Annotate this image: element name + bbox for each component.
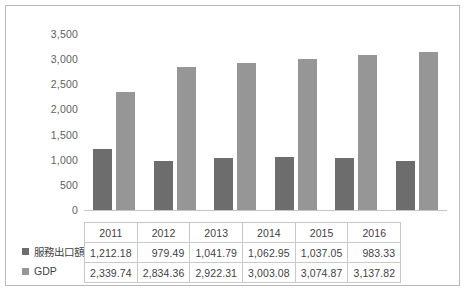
bar — [335, 158, 354, 210]
y-axis-tick: 1,500 — [51, 129, 78, 141]
bar — [275, 157, 294, 210]
legend-label: GDP — [34, 265, 57, 277]
bar — [396, 161, 415, 210]
table-cell-value: 979.49 — [137, 243, 190, 263]
table-cell-value: 983.33 — [348, 243, 401, 263]
table-cell-year: 2015 — [295, 223, 348, 243]
bar-group — [326, 34, 387, 210]
bar — [298, 59, 317, 210]
table-cell-year: 2013 — [190, 223, 243, 243]
chart-border: 3,500 3,000 2,500 2,000 1,500 1,000 500 … — [5, 5, 460, 286]
chart-container: 3,500 3,000 2,500 2,000 1,500 1,000 500 … — [0, 0, 465, 291]
legend-swatch-icon — [22, 268, 29, 275]
bar-group — [145, 34, 206, 210]
bar — [237, 63, 256, 210]
legend-item-series-a: 服務出口額 — [18, 241, 84, 261]
table-cell-value: 2,339.74 — [85, 263, 138, 283]
y-axis-tick: 2,500 — [51, 78, 78, 90]
table-cell-value: 1,062.95 — [243, 243, 296, 263]
table-cell-value: 1,041.79 — [190, 243, 243, 263]
table-cell-value: 1,037.05 — [295, 243, 348, 263]
table-row-years: 201120122013201420152016 — [85, 223, 401, 243]
bar-group — [205, 34, 266, 210]
legend-item-series-b: GDP — [18, 261, 84, 281]
bar-group — [266, 34, 327, 210]
data-table: 2011201220132014201520161,212.18979.491,… — [84, 222, 401, 283]
y-axis-tick: 2,000 — [51, 103, 78, 115]
table-cell-year: 2016 — [348, 223, 401, 243]
bar — [154, 161, 173, 210]
table-cell-value: 3,003.08 — [243, 263, 296, 283]
bar-groups — [84, 34, 447, 210]
legend: 服務出口額 GDP — [18, 241, 84, 281]
table-cell-value: 2,834.36 — [137, 263, 190, 283]
bar — [419, 52, 438, 210]
table-cell-value: 3,137.82 — [348, 263, 401, 283]
bar-group — [84, 34, 145, 210]
table-row: 1,212.18979.491,041.791,062.951,037.0598… — [85, 243, 401, 263]
table-cell-year: 2014 — [243, 223, 296, 243]
table-cell-year: 2012 — [137, 223, 190, 243]
y-axis-tick: 1,000 — [51, 154, 78, 166]
table-row: 2,339.742,834.362,922.313,003.083,074.87… — [85, 263, 401, 283]
legend-swatch-icon — [22, 248, 29, 255]
bar — [93, 149, 112, 210]
table-cell-value: 1,212.18 — [85, 243, 138, 263]
plot-region: 3,500 3,000 2,500 2,000 1,500 1,000 500 … — [6, 6, 459, 222]
plot-area — [84, 34, 447, 211]
legend-label: 服務出口額 — [34, 244, 84, 259]
bar — [177, 67, 196, 210]
table-cell-value: 2,922.31 — [190, 263, 243, 283]
bar — [358, 55, 377, 210]
y-axis-tick: 3,500 — [51, 28, 78, 40]
bar — [116, 92, 135, 210]
y-axis-tick: 0 — [72, 204, 78, 216]
y-axis: 3,500 3,000 2,500 2,000 1,500 1,000 500 … — [20, 34, 78, 210]
y-axis-tick: 500 — [60, 179, 78, 191]
table-cell-year: 2011 — [85, 223, 138, 243]
bar — [214, 158, 233, 210]
table-cell-value: 3,074.87 — [295, 263, 348, 283]
bar-group — [387, 34, 448, 210]
y-axis-tick: 3,000 — [51, 53, 78, 65]
